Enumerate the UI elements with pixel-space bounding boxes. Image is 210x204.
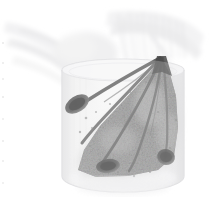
volumetric-render-svg [0, 0, 210, 204]
vessel-glass-overlay [62, 59, 184, 192]
vessel-drop-shadow [77, 177, 169, 195]
scan-image-canvas: Volumetric X-ray Render of Granular Fan … [0, 0, 210, 204]
